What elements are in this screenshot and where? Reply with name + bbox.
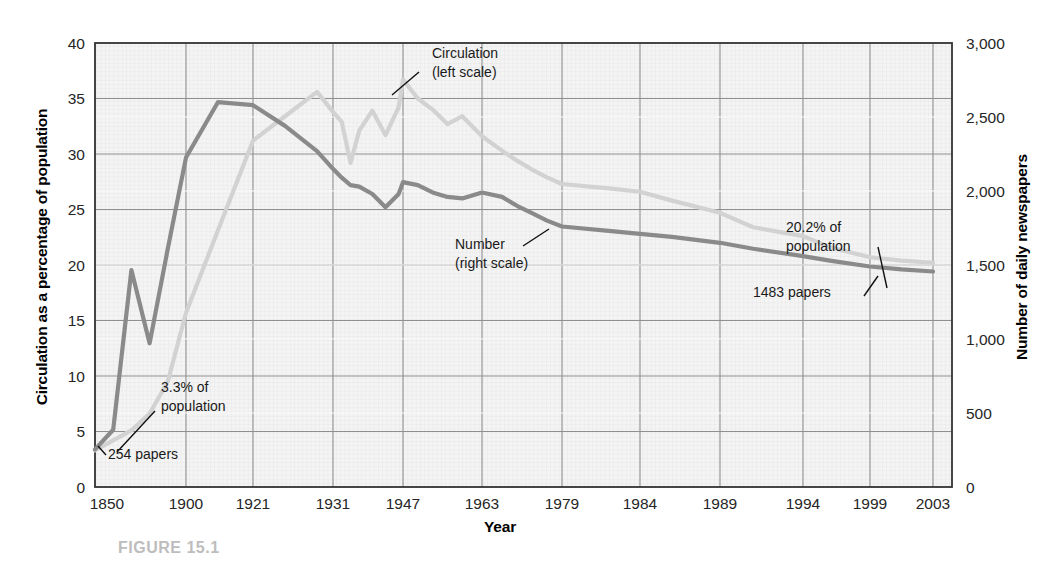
y-tick-right: 2,000: [966, 183, 1005, 200]
start-number-callout: 254 papers: [108, 446, 178, 462]
x-tick: 1979: [545, 495, 579, 512]
y-tick-left: 35: [68, 90, 85, 107]
x-axis-tick-labels: 1850190019211931194719631979198419891994…: [90, 495, 950, 512]
y-axis-right-tick-labels: 05001,0001,5002,0002,5003,000: [966, 35, 1005, 496]
end-number-callout: 1483 papers: [753, 284, 831, 300]
end-circulation-callout-line1: 20.2% of: [786, 219, 841, 235]
circulation-callout-line1: Circulation: [432, 45, 498, 61]
y-tick-right: 500: [966, 405, 992, 422]
x-tick: 1931: [316, 495, 350, 512]
x-tick: 1989: [703, 495, 737, 512]
end-number-callout-line1: 1483 papers: [753, 284, 831, 300]
y-tick-left: 25: [68, 201, 85, 218]
y-tick-right: 1,000: [966, 331, 1005, 348]
y-tick-left: 0: [76, 479, 85, 496]
start-number-callout-line1: 254 papers: [108, 446, 178, 462]
x-tick: 1850: [90, 495, 125, 512]
circulation-callout-line2: (left scale): [432, 64, 497, 80]
y-tick-left: 15: [68, 312, 85, 329]
x-tick: 1963: [465, 495, 499, 512]
line-chart: 0510152025303540 05001,0001,5002,0002,50…: [0, 0, 1056, 575]
y-tick-left: 20: [68, 257, 86, 274]
x-tick: 1994: [786, 495, 821, 512]
y-tick-left: 30: [68, 146, 86, 163]
x-tick: 2003: [916, 495, 950, 512]
x-tick: 1921: [236, 495, 270, 512]
number-callout-line2: (right scale): [455, 255, 528, 271]
y-tick-left: 5: [76, 423, 85, 440]
y-tick-right: 0: [966, 479, 975, 496]
number-callout-line1: Number: [455, 236, 505, 252]
y-tick-right: 1,500: [966, 257, 1005, 274]
start-circulation-callout-line2: population: [161, 398, 226, 414]
x-tick: 1947: [386, 495, 420, 512]
y-tick-right: 3,000: [966, 35, 1005, 52]
y-axis-left-tick-labels: 0510152025303540: [68, 35, 86, 496]
end-circulation-callout-line2: population: [786, 238, 851, 254]
figure-container: Circulation as a percentage of populatio…: [0, 0, 1056, 575]
y-tick-right: 2,500: [966, 109, 1005, 126]
x-tick: 1984: [623, 495, 658, 512]
start-circulation-callout-line1: 3.3% of: [161, 379, 209, 395]
y-tick-left: 40: [68, 35, 86, 52]
x-tick: 1900: [169, 495, 204, 512]
x-tick: 1999: [853, 495, 887, 512]
y-tick-left: 10: [68, 368, 86, 385]
